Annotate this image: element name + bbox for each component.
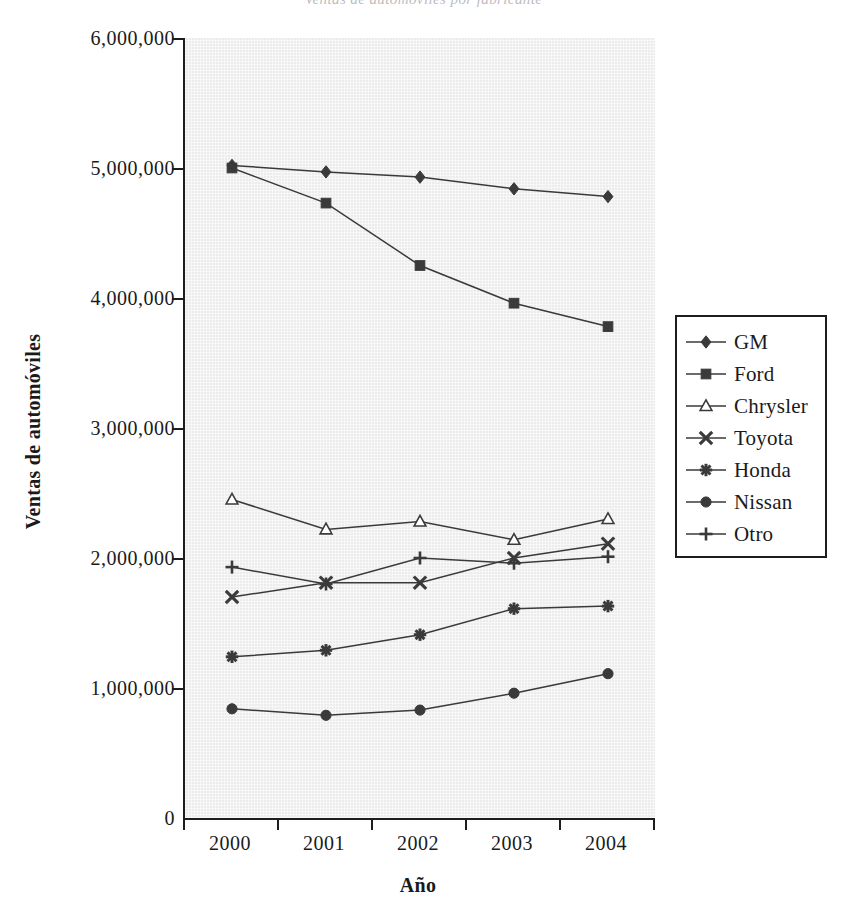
legend-swatch	[684, 491, 728, 513]
circle-filled-icon	[227, 704, 237, 714]
asterisk-filled-icon	[508, 603, 520, 615]
circle-filled-icon	[509, 688, 519, 698]
y-tick-mark	[172, 298, 183, 300]
diamond-filled-icon	[321, 166, 331, 178]
legend-label: Honda	[728, 460, 791, 481]
legend-label: Otro	[728, 524, 773, 545]
legend-swatch	[684, 331, 728, 353]
legend-swatch	[684, 395, 728, 417]
square-filled-icon	[603, 322, 613, 332]
legend-item-otro[interactable]: Otro	[677, 518, 825, 550]
chart-title-clipped: Ventas de automóviles por fabricante	[0, 0, 847, 7]
diamond-filled-icon	[509, 183, 519, 195]
legend-label: GM	[728, 332, 768, 353]
y-tick-label: 2,000,000	[0, 548, 175, 568]
plus-icon	[699, 527, 712, 540]
chart-legend: GMFordChryslerToyotaHondaNissanOtro	[675, 315, 827, 558]
y-tick-mark	[172, 688, 183, 690]
y-tick-mark	[172, 558, 183, 560]
series-ford	[227, 163, 613, 331]
y-tick-mark	[172, 38, 183, 40]
asterisk-filled-icon	[414, 629, 426, 641]
triangle-open-icon	[700, 400, 712, 411]
triangle-open-icon	[602, 513, 614, 524]
diamond-filled-icon	[415, 171, 425, 183]
diamond-filled-icon	[701, 336, 711, 348]
y-tick-label: 6,000,000	[0, 28, 175, 48]
diamond-filled-icon	[603, 190, 613, 202]
plus-icon	[413, 551, 426, 564]
legend-item-ford[interactable]: Ford	[677, 358, 825, 390]
y-tick-mark	[172, 428, 183, 430]
plus-icon	[225, 561, 238, 574]
asterisk-filled-icon	[226, 651, 238, 663]
legend-swatch	[684, 427, 728, 449]
x-tick-label: 2004	[551, 832, 661, 855]
square-filled-icon	[321, 198, 331, 208]
legend-label: Chrysler	[728, 396, 808, 417]
y-tick-label: 5,000,000	[0, 158, 175, 178]
circle-filled-icon	[603, 669, 613, 679]
legend-item-chrysler[interactable]: Chrysler	[677, 390, 825, 422]
y-tick-mark	[172, 168, 183, 170]
legend-item-nissan[interactable]: Nissan	[677, 486, 825, 518]
triangle-open-icon	[414, 515, 426, 526]
triangle-open-icon	[226, 493, 238, 504]
plus-icon	[601, 550, 614, 563]
legend-swatch	[684, 459, 728, 481]
asterisk-filled-icon	[602, 600, 614, 612]
y-tick-label: 0	[0, 808, 175, 828]
y-tick-label: 4,000,000	[0, 288, 175, 308]
legend-swatch	[684, 523, 728, 545]
chart-title-text: Ventas de automóviles por fabricante	[0, 0, 847, 7]
y-tick-label: 1,000,000	[0, 678, 175, 698]
square-filled-icon	[509, 298, 519, 308]
series-gm	[227, 159, 613, 203]
y-tick-label: 3,000,000	[0, 418, 175, 438]
square-filled-icon	[415, 261, 425, 271]
legend-item-honda[interactable]: Honda	[677, 454, 825, 486]
legend-swatch	[684, 363, 728, 385]
asterisk-filled-icon	[700, 464, 712, 476]
square-filled-icon	[227, 163, 237, 173]
x-axis-title: Año	[183, 874, 653, 897]
series-canvas	[185, 38, 655, 818]
series-honda	[226, 600, 614, 663]
series-chrysler	[226, 493, 614, 544]
circle-filled-icon	[321, 710, 331, 720]
asterisk-filled-icon	[320, 644, 332, 656]
circle-filled-icon	[701, 497, 711, 507]
plot-area	[183, 38, 655, 820]
legend-item-toyota[interactable]: Toyota	[677, 422, 825, 454]
legend-label: Ford	[728, 364, 774, 385]
series-toyota	[226, 538, 614, 604]
legend-label: Toyota	[728, 428, 793, 449]
legend-label: Nissan	[728, 492, 792, 513]
legend-item-gm[interactable]: GM	[677, 326, 825, 358]
series-nissan	[227, 669, 613, 721]
circle-filled-icon	[415, 705, 425, 715]
chart-figure: Ventas de automóviles por fabricante Ven…	[0, 0, 847, 918]
square-filled-icon	[701, 369, 711, 379]
